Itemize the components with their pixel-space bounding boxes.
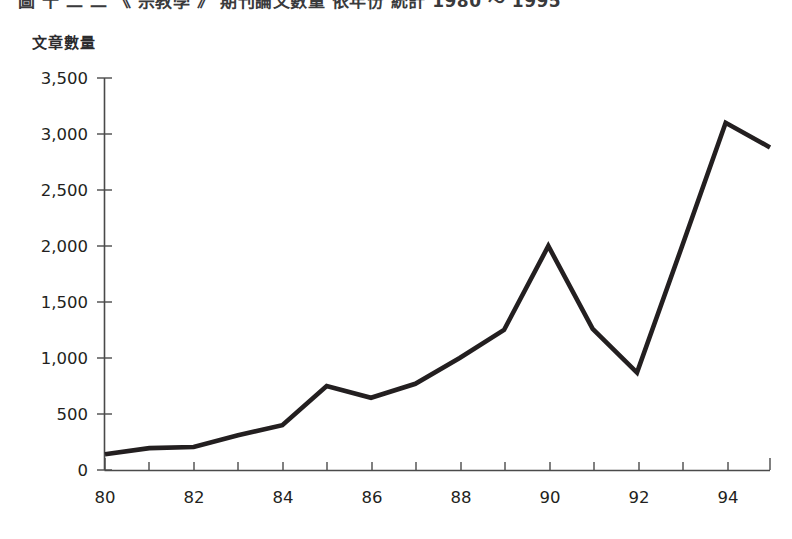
x-tick-label-92: 92	[629, 488, 650, 507]
y-tick-label-1500: 1,500	[41, 293, 88, 312]
x-axis-group: 80 82 84 86 88 90 92 94	[95, 458, 771, 507]
y-tick-label-1000: 1,000	[41, 349, 88, 368]
x-tick-label-90: 90	[540, 488, 561, 507]
y-tick-label-3000: 3,000	[41, 125, 88, 144]
x-tick-label-86: 86	[362, 488, 383, 507]
y-tick-label-0: 0	[78, 461, 89, 480]
x-tick-label-84: 84	[273, 488, 294, 507]
x-tick-label-82: 82	[184, 488, 205, 507]
x-tick-label-80: 80	[95, 488, 116, 507]
y-axis-group: 3,500 3,000 2,500 2,000 1,500 1,000 500 …	[41, 69, 112, 480]
y-tick-label-3500: 3,500	[41, 69, 88, 88]
x-tick-label-88: 88	[451, 488, 472, 507]
x-axis-tick-labels: 80 82 84 86 88 90 92 94	[95, 488, 739, 507]
line-chart: 3,500 3,000 2,500 2,000 1,500 1,000 500 …	[0, 0, 792, 539]
x-tick-label-94: 94	[718, 488, 739, 507]
x-axis-ticks	[105, 458, 770, 470]
data-series-line	[105, 123, 770, 455]
y-axis-tick-labels: 3,500 3,000 2,500 2,000 1,500 1,000 500 …	[41, 69, 88, 480]
y-tick-label-2500: 2,500	[41, 181, 88, 200]
chart-svg: 3,500 3,000 2,500 2,000 1,500 1,000 500 …	[0, 0, 792, 539]
y-tick-label-500: 500	[57, 405, 89, 424]
y-tick-label-2000: 2,000	[41, 237, 88, 256]
